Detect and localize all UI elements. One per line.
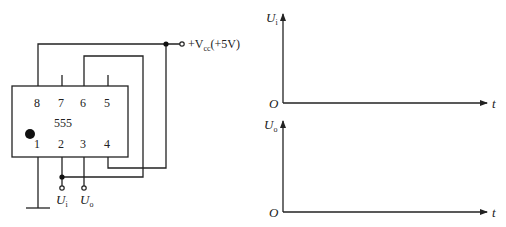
pin-6-label: 6 [80, 96, 86, 110]
plot-ui-x-label: t [492, 96, 496, 111]
pin-3-label: 3 [80, 137, 86, 151]
pin-8-label: 8 [34, 96, 40, 110]
chip-label: 555 [54, 116, 72, 130]
output-terminal-label: Uo [80, 192, 93, 209]
input-terminal-label: Ui [56, 192, 68, 209]
pin-7-label: 7 [58, 96, 64, 110]
plot-ui-origin: O [269, 96, 279, 111]
plot-output-voltage: Uo O t [264, 117, 496, 220]
diagram-canvas: 8 7 6 5 555 1 2 3 4 +Vcc(+5V) [0, 0, 506, 227]
circuit-555: 8 7 6 5 555 1 2 3 4 +Vcc(+5V) [12, 37, 240, 209]
pin-5-label: 5 [104, 96, 110, 110]
vcc-junction-dot [163, 41, 168, 46]
plot-input-voltage: Ui O t [266, 10, 496, 111]
plot-uo-y-label: Uo [264, 117, 277, 134]
plot-uo-origin: O [269, 205, 279, 220]
wire-vcc-pin4 [108, 44, 166, 168]
pin-2-label: 2 [58, 137, 64, 151]
wire-pin8-vcc [38, 44, 180, 86]
input-terminal [60, 186, 64, 190]
wire-pin6-pin2 [62, 56, 143, 177]
pin2-junction-dot [59, 174, 64, 179]
pin-4-label: 4 [104, 137, 110, 151]
output-terminal [82, 186, 86, 190]
vcc-label: +Vcc(+5V) [188, 37, 240, 53]
plot-uo-x-label: t [492, 205, 496, 220]
vcc-terminal [180, 42, 184, 46]
pin-1-label: 1 [34, 137, 40, 151]
plot-ui-y-label: Ui [266, 10, 278, 27]
